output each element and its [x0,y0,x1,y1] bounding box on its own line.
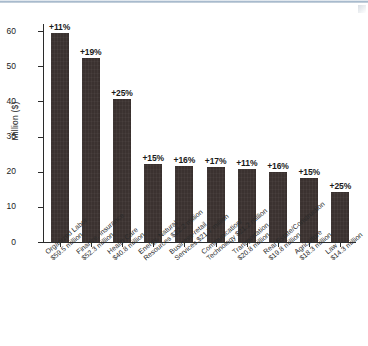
bar [51,33,69,242]
y-axis-tick [38,66,43,67]
bar-value-label: +25% [106,88,138,98]
bar-value-label: +17% [200,156,232,166]
bar [82,58,100,242]
y-axis-tick [38,137,43,138]
y-axis-tick-label: 0 [0,238,16,247]
y-axis-tick-label: 50 [0,62,16,71]
y-axis-tick-label: 30 [0,132,16,141]
y-axis-tick-label: 20 [0,167,16,176]
y-axis-line [43,24,44,243]
bar-value-label: +16% [262,161,294,171]
chart-figure: Million ($) 0102030405060 +11%+19%+25%+1… [0,0,368,346]
y-axis-tick [38,172,43,173]
y-axis-tick [38,207,43,208]
y-axis-tick-label: 40 [0,97,16,106]
y-axis-tick-label: 60 [0,27,16,36]
bar-value-label: +25% [324,181,356,191]
bar-value-label: +11% [44,22,76,32]
bar-value-label: +11% [231,158,263,168]
y-axis-tick-label: 10 [0,202,16,211]
bar-value-label: +19% [75,47,107,57]
y-axis-tick [38,101,43,102]
y-axis-tick [38,31,43,32]
y-axis-tick [38,242,43,243]
bar-value-label: +15% [293,167,325,177]
top-divider-rule [0,0,368,3]
bar-value-label: +16% [168,155,200,165]
bar-value-label: +15% [137,153,169,163]
x-axis-category-labels: Organized Labor$59.5 millionFinance, Ins… [0,246,368,346]
corner-fold-mark [358,5,366,13]
